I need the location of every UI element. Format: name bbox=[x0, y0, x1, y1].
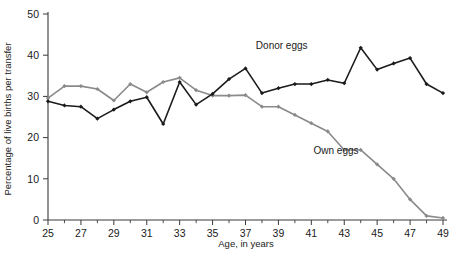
series-label-own-eggs: Own eggs bbox=[314, 145, 359, 156]
donor-eggs-marker bbox=[326, 78, 330, 82]
y-tick-label: 40 bbox=[27, 49, 39, 61]
series-donor-eggs bbox=[46, 46, 445, 126]
own-eggs-marker bbox=[227, 93, 231, 97]
x-tick-label: 37 bbox=[240, 227, 252, 239]
own-eggs-marker bbox=[441, 216, 445, 220]
x-tick-label: 49 bbox=[437, 227, 449, 239]
x-tick-label: 25 bbox=[42, 227, 54, 239]
donor-eggs-marker bbox=[293, 82, 297, 86]
x-axis-title: Age, in years bbox=[218, 238, 274, 249]
donor-eggs-marker bbox=[276, 86, 280, 90]
x-tick-label: 47 bbox=[404, 227, 416, 239]
y-tick-label: 20 bbox=[27, 131, 39, 143]
donor-eggs-marker bbox=[46, 99, 50, 103]
y-tick-label: 30 bbox=[27, 90, 39, 102]
x-tick-label-group: 25272931333537394143454749 bbox=[42, 227, 449, 239]
y-tick-label: 0 bbox=[33, 214, 39, 226]
y-tick-label: 10 bbox=[27, 173, 39, 185]
x-tick-label: 31 bbox=[141, 227, 153, 239]
x-tick-label: 27 bbox=[75, 227, 87, 239]
y-tick-label-group: 01020304050 bbox=[27, 8, 39, 226]
x-tick-label: 45 bbox=[371, 227, 383, 239]
x-tick-label: 35 bbox=[207, 227, 219, 239]
donor-eggs-marker bbox=[309, 82, 313, 86]
y-tick-label: 50 bbox=[27, 8, 39, 20]
x-tick-label: 43 bbox=[338, 227, 350, 239]
line-chart: Percentage of live births per transfer A… bbox=[0, 0, 461, 267]
own-eggs-line bbox=[48, 78, 443, 218]
x-tick-label: 33 bbox=[174, 227, 186, 239]
y-axis-title: Percentage of live births per transfer bbox=[2, 42, 13, 195]
x-tick-label: 39 bbox=[273, 227, 285, 239]
series-label-donor-eggs: Donor eggs bbox=[256, 40, 308, 51]
x-tick-label: 29 bbox=[108, 227, 120, 239]
chart-figure: Percentage of live births per transfer A… bbox=[0, 0, 461, 267]
donor-eggs-marker bbox=[62, 103, 66, 107]
series-own-eggs bbox=[46, 76, 445, 220]
axes-group bbox=[43, 12, 447, 225]
own-eggs-marker bbox=[79, 84, 83, 88]
donor-eggs-marker bbox=[392, 61, 396, 65]
x-tick-label: 41 bbox=[305, 227, 317, 239]
donor-eggs-line bbox=[48, 48, 443, 124]
